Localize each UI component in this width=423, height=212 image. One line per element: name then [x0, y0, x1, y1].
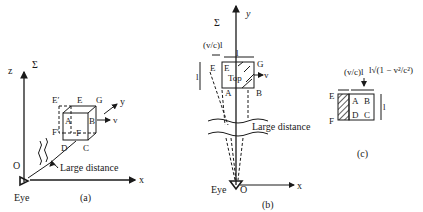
panel-c: (v/c)l l√(1 − v²/c²) E F A B D C l (c)	[329, 65, 413, 160]
distance-break-2	[45, 138, 48, 162]
length-side-label: l	[196, 72, 199, 82]
distance-break-1	[39, 141, 42, 165]
caption-c: (c)	[357, 148, 368, 160]
vertex-b: B	[89, 116, 95, 126]
offset-label: (v/c)l	[344, 67, 364, 77]
y-axis-upper	[104, 104, 117, 114]
z-axis-label: z	[8, 65, 13, 76]
frame-sigma-label: Σ	[214, 17, 220, 28]
distance-pointer	[50, 164, 58, 168]
offset-label: (v/c)l	[203, 40, 223, 50]
vertex-e: E	[329, 91, 335, 101]
vertex-f: F	[329, 116, 334, 126]
y-axis-label: y	[245, 8, 251, 19]
eye-label: Eye	[211, 184, 227, 195]
origin-label: O	[13, 160, 20, 171]
large-distance-label: Large distance	[60, 162, 119, 173]
vertex-a: A	[225, 88, 232, 98]
vertex-c: C	[364, 110, 370, 120]
origin-label: O	[240, 184, 247, 195]
cube-edge	[88, 106, 96, 113]
caption-a: (a)	[80, 192, 91, 204]
ray-e-left	[210, 72, 228, 125]
vertex-e: E	[77, 95, 83, 105]
x-axis-label: x	[297, 180, 302, 191]
x-axis-label: x	[139, 174, 144, 185]
vertex-f-prime: F′	[52, 127, 59, 137]
hatched-side-face	[338, 94, 349, 120]
vertex-b: B	[256, 88, 262, 98]
ray-converge-3	[238, 138, 243, 180]
shifted-side	[59, 106, 63, 133]
vertex-d: D	[61, 143, 68, 153]
y-axis-label: y	[120, 96, 125, 107]
eye-label: Eye	[14, 192, 30, 203]
vertex-a: A	[65, 116, 72, 126]
large-distance-label: Large distance	[252, 121, 311, 132]
contracted-label: l√(1 − v²/c²)	[369, 65, 413, 75]
velocity-label: v	[113, 115, 118, 125]
top-label: Top	[228, 73, 242, 83]
vertex-g: G	[96, 95, 103, 105]
panel-a: z Σ x y O Eye Large distance E′ E G A B	[8, 59, 144, 204]
vertex-g: G	[257, 59, 264, 69]
frame-sigma-label: Σ	[32, 59, 38, 70]
y-axis-lower	[28, 163, 50, 178]
break-lower	[208, 132, 268, 136]
panel-b: y Σ x Eye O E Top G v A B (v/c)l l E l L…	[196, 6, 311, 211]
relativity-figure: z Σ x y O Eye Large distance E′ E G A B	[0, 0, 423, 212]
vertex-f: F	[76, 128, 81, 138]
vertex-e-left: E	[210, 63, 216, 73]
vertex-b: B	[364, 96, 370, 106]
caption-b: (b)	[262, 199, 274, 211]
length-side-label: l	[383, 102, 386, 112]
vertex-e: E	[224, 63, 230, 73]
vertex-e-prime: E′	[52, 95, 59, 105]
vertex-a: A	[352, 96, 359, 106]
vertex-c: C	[83, 143, 89, 153]
vertex-d: D	[352, 110, 359, 120]
velocity-label: v	[264, 70, 269, 80]
